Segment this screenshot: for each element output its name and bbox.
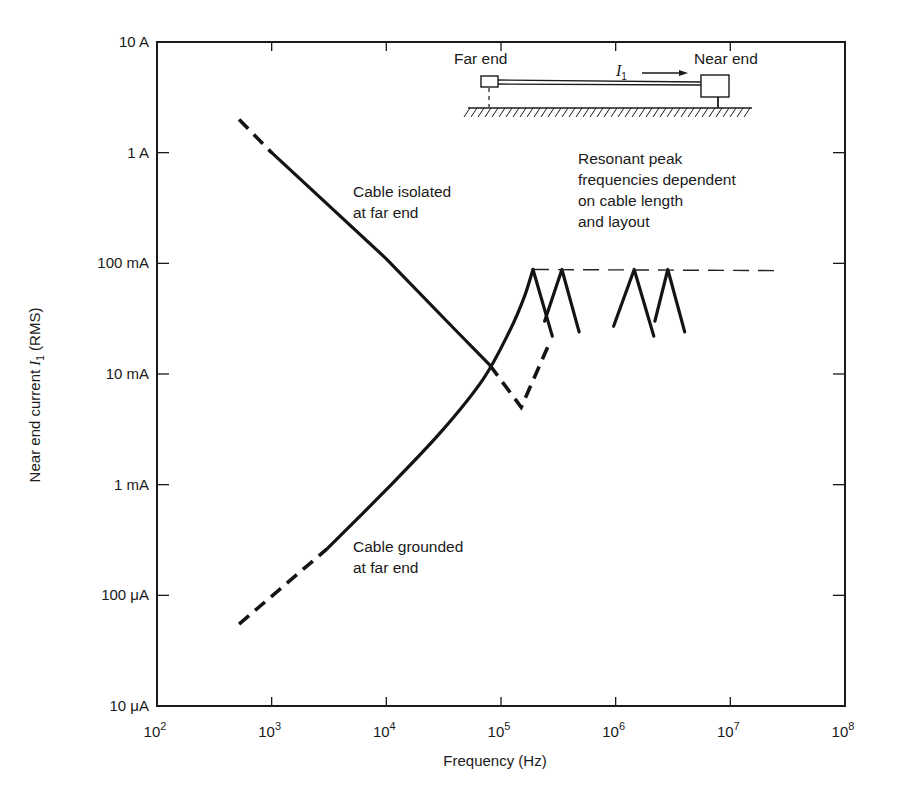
y-tick-label: 100 mA <box>97 254 149 271</box>
hatch-mark <box>681 108 687 117</box>
x-tick-label: 105 <box>488 720 511 740</box>
x-tick-label: 102 <box>144 720 167 740</box>
hatch-mark <box>625 108 631 117</box>
hatch-mark <box>611 108 617 117</box>
y-tick-label: 10 μA <box>110 697 150 714</box>
hatch-mark <box>583 108 589 117</box>
series-resonant-peaks <box>533 270 685 337</box>
hatch-mark <box>555 108 561 117</box>
x-tick-label: 104 <box>373 720 396 740</box>
hatch-mark <box>695 108 701 117</box>
inset-near-end-label: Near end <box>694 50 758 67</box>
series-segment <box>239 549 326 624</box>
hatch-mark <box>674 108 680 117</box>
hatch-mark <box>688 108 694 117</box>
hatch-mark <box>716 108 722 117</box>
hatch-mark <box>730 108 736 117</box>
annotation-grounded: Cable grounded at far end <box>353 538 468 576</box>
x-axis-label: Frequency (Hz) <box>443 752 546 769</box>
hatch-mark <box>702 108 708 117</box>
hatch-mark <box>513 108 519 117</box>
hatch-mark <box>485 108 491 117</box>
x-tick-label: 103 <box>258 720 281 740</box>
hatch-mark <box>534 108 540 117</box>
series-segment <box>614 270 654 337</box>
hatch-mark <box>709 108 715 117</box>
y-tick-label: 100 μA <box>101 586 149 603</box>
series-segment <box>326 270 533 550</box>
series-segment <box>239 119 272 152</box>
inset-far-end-label: Far end <box>454 50 507 67</box>
series-layer <box>239 119 776 624</box>
hatch-mark <box>569 108 575 117</box>
hatch-mark <box>541 108 547 117</box>
hatch-mark <box>618 108 624 117</box>
y-tick-label: 10 A <box>119 33 149 50</box>
cable-line-bottom <box>498 84 701 85</box>
x-tick-labels: 102103104105106107108 <box>144 720 855 740</box>
hatch-mark <box>744 108 750 117</box>
x-ticks <box>272 42 731 706</box>
hatch-mark <box>520 108 526 117</box>
hatch-mark <box>576 108 582 117</box>
hatch-mark <box>471 108 477 117</box>
hatch-mark <box>492 108 498 117</box>
hatch-mark <box>723 108 729 117</box>
hatch-mark <box>590 108 596 117</box>
series-segment <box>533 270 776 271</box>
annotation-isolated: Cable isolated at far end <box>353 183 456 221</box>
hatch-mark <box>604 108 610 117</box>
x-tick-label: 108 <box>832 720 855 740</box>
hatch-mark <box>562 108 568 117</box>
hatch-mark <box>478 108 484 117</box>
hatch-mark <box>527 108 533 117</box>
y-tick-label: 1 A <box>127 144 149 161</box>
y-tick-labels: 10 A1 A100 mA10 mA1 mA100 μA10 μA <box>97 33 149 714</box>
series-peak-envelope <box>533 270 776 271</box>
hatch-mark <box>653 108 659 117</box>
hatch-mark <box>597 108 603 117</box>
cable-line-top <box>498 80 701 82</box>
hatch-mark <box>506 108 512 117</box>
y-axis-label: Near end current I1 (RMS) <box>26 308 46 483</box>
near-end-box <box>701 75 729 97</box>
hatch-mark <box>660 108 666 117</box>
current-arrowhead-icon <box>679 70 688 76</box>
ground-hatching <box>464 108 750 117</box>
inset-current-label: I1 <box>615 62 627 82</box>
hatch-mark <box>639 108 645 117</box>
series-cable-isolated-at-far-end <box>239 119 550 407</box>
y-ticks <box>157 153 845 596</box>
x-tick-label: 107 <box>717 720 740 740</box>
y-tick-label: 1 mA <box>114 476 149 493</box>
y-tick-label: 10 mA <box>106 365 149 382</box>
hatch-mark <box>646 108 652 117</box>
hatch-mark <box>464 108 470 117</box>
inset-cable-diagram: Far end Near end I1 <box>454 50 758 117</box>
hatch-mark <box>737 108 743 117</box>
hatch-mark <box>667 108 673 117</box>
chart: 102103104105106107108 10 A1 A100 mA10 mA… <box>0 0 897 802</box>
hatch-mark <box>548 108 554 117</box>
series-segment <box>655 270 685 332</box>
hatch-mark <box>632 108 638 117</box>
far-end-box <box>481 76 498 87</box>
hatch-mark <box>499 108 505 117</box>
x-tick-label: 106 <box>602 720 625 740</box>
annotation-resonant: Resonant peak frequencies dependent on c… <box>578 150 740 230</box>
